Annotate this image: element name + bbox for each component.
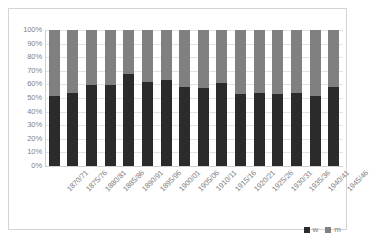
stacked-bar[interactable] xyxy=(235,30,246,166)
bar-segment-m[interactable] xyxy=(198,30,209,88)
legend-label: w xyxy=(313,226,319,234)
y-axis-tick-label: 20% xyxy=(2,135,42,143)
y-axis-tick-label: 80% xyxy=(2,53,42,61)
stacked-bar[interactable] xyxy=(161,30,172,166)
bar-segment-m[interactable] xyxy=(310,30,321,96)
bar-slot[interactable] xyxy=(120,30,139,166)
y-axis-tick-label: 70% xyxy=(2,67,42,75)
bar-slot[interactable] xyxy=(287,30,306,166)
bar-slot[interactable] xyxy=(82,30,101,166)
stacked-bar[interactable] xyxy=(254,30,265,166)
stacked-bar[interactable] xyxy=(86,30,97,166)
bar-segment-m[interactable] xyxy=(49,30,60,96)
bar-segment-m[interactable] xyxy=(105,30,116,85)
bar-segment-m[interactable] xyxy=(142,30,153,82)
stacked-bar[interactable] xyxy=(310,30,321,166)
bar-slot[interactable] xyxy=(45,30,64,166)
bar-segment-w[interactable] xyxy=(254,93,265,166)
bar-segment-w[interactable] xyxy=(328,87,339,166)
legend-swatch-icon xyxy=(304,227,310,233)
bar-segment-w[interactable] xyxy=(235,94,246,166)
bar-slot[interactable] xyxy=(138,30,157,166)
bar-segment-w[interactable] xyxy=(291,93,302,166)
y-axis-tick-label: 0% xyxy=(2,162,42,170)
stacked-bar[interactable] xyxy=(198,30,209,166)
bar-slot[interactable] xyxy=(306,30,325,166)
stacked-bar[interactable] xyxy=(216,30,227,166)
bar-slot[interactable] xyxy=(269,30,288,166)
bar-slot[interactable] xyxy=(324,30,343,166)
bar-segment-m[interactable] xyxy=(328,30,339,87)
bar-segment-w[interactable] xyxy=(161,80,172,166)
bar-slot[interactable] xyxy=(101,30,120,166)
stacked-bar[interactable] xyxy=(49,30,60,166)
bar-slot[interactable] xyxy=(64,30,83,166)
y-axis-labels: 0%10%20%30%40%50%60%70%80%90%100% xyxy=(0,30,42,166)
bar-slot[interactable] xyxy=(194,30,213,166)
bar-segment-m[interactable] xyxy=(272,30,283,94)
bar-segment-m[interactable] xyxy=(161,30,172,80)
bar-segment-w[interactable] xyxy=(67,93,78,166)
stacked-bar[interactable] xyxy=(123,30,134,166)
bar-segment-m[interactable] xyxy=(216,30,227,83)
bar-series-group xyxy=(45,30,343,166)
bar-segment-w[interactable] xyxy=(142,82,153,166)
y-axis-tick-label: 60% xyxy=(2,80,42,88)
bar-segment-m[interactable] xyxy=(254,30,265,93)
y-axis-tick-label: 50% xyxy=(2,94,42,102)
bar-segment-m[interactable] xyxy=(123,30,134,74)
stacked-bar[interactable] xyxy=(105,30,116,166)
bar-segment-m[interactable] xyxy=(235,30,246,94)
stacked-bar[interactable] xyxy=(67,30,78,166)
bar-segment-w[interactable] xyxy=(272,94,283,166)
bar-segment-m[interactable] xyxy=(67,30,78,93)
stacked-bar[interactable] xyxy=(272,30,283,166)
bar-segment-w[interactable] xyxy=(310,96,321,166)
y-axis-tick-label: 30% xyxy=(2,121,42,129)
bar-slot[interactable] xyxy=(157,30,176,166)
bar-slot[interactable] xyxy=(175,30,194,166)
bar-segment-m[interactable] xyxy=(291,30,302,93)
bar-segment-m[interactable] xyxy=(179,30,190,87)
bar-segment-w[interactable] xyxy=(216,83,227,166)
y-axis-tick-label: 90% xyxy=(2,40,42,48)
legend-entry[interactable]: w xyxy=(304,226,319,234)
bar-segment-w[interactable] xyxy=(86,85,97,166)
legend-entry[interactable]: m xyxy=(325,226,341,234)
legend-label: m xyxy=(334,226,341,234)
bar-slot[interactable] xyxy=(231,30,250,166)
bar-segment-m[interactable] xyxy=(86,30,97,85)
bar-segment-w[interactable] xyxy=(198,88,209,166)
stacked-bar[interactable] xyxy=(179,30,190,166)
bar-segment-w[interactable] xyxy=(179,87,190,166)
legend-swatch-icon xyxy=(325,227,331,233)
bar-segment-w[interactable] xyxy=(123,74,134,166)
stacked-bar[interactable] xyxy=(291,30,302,166)
bar-segment-w[interactable] xyxy=(105,85,116,166)
stacked-bar[interactable] xyxy=(142,30,153,166)
y-axis-tick-label: 100% xyxy=(2,26,42,34)
chart-legend: wm xyxy=(304,226,341,234)
stacked-bar[interactable] xyxy=(328,30,339,166)
x-axis-labels: 1870/711875/761880/811885/861890/911895/… xyxy=(45,167,343,217)
y-axis-tick-label: 40% xyxy=(2,108,42,116)
bar-slot[interactable] xyxy=(213,30,232,166)
bar-slot[interactable] xyxy=(250,30,269,166)
y-axis-tick-label: 10% xyxy=(2,148,42,156)
bar-segment-w[interactable] xyxy=(49,96,60,166)
